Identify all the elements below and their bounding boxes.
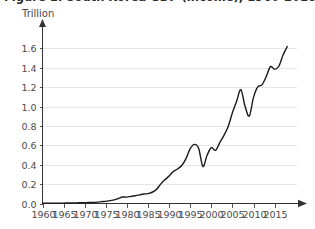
chart-figure: Figure 1: South Korea GDP (income), 1960… [0,0,315,229]
y-axis-tick-label: 1.0 [21,102,36,113]
x-axis-tick-label: 2005 [220,209,244,220]
x-axis-tick-label: 2015 [263,209,287,220]
x-axis-arrow-icon [298,200,307,207]
gdp-series-line [43,46,288,203]
y-axis-tick-label: 1.2 [21,82,36,93]
y-axis-arrow-icon [39,19,46,27]
y-axis-tick-label: 0.8 [21,121,36,132]
gridlines [43,49,298,185]
y-axis-tick-label: 1.6 [21,43,36,54]
line-chart-plot: 0.00.20.40.60.81.01.21.41.6 196019651970… [0,0,315,229]
y-axis-tick-label: 1.4 [21,63,36,74]
y-axis-tick-labels: 0.00.20.40.60.81.01.21.41.6 [21,43,36,210]
y-axis-tick-label: 0.2 [21,179,36,190]
y-axis-tick-label: 0.6 [21,140,36,151]
x-axis-tick-labels: 1960196519701975198019851990199520002005… [31,209,287,220]
x-axis-tick-marks [44,204,276,208]
y-axis-tick-label: 0.4 [21,160,36,171]
